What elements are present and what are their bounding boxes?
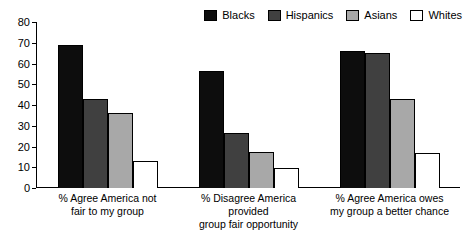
legend-entry-hispanics: Hispanics [268, 10, 334, 21]
y-axis-tick-label: 20 [18, 141, 30, 153]
category-label-line: % Agree America owes [321, 192, 458, 205]
y-axis-tick-label: 70 [18, 37, 30, 49]
y-axis-tick-mark [32, 147, 36, 148]
legend-entry-blacks: Blacks [204, 10, 254, 21]
legend-entry-whites: Whites [410, 10, 462, 21]
y-axis-tick-mark [32, 22, 36, 23]
bar-group [37, 22, 178, 188]
bar-slot [199, 22, 224, 188]
y-axis-tick-label: 30 [18, 120, 30, 132]
bar-slot [415, 22, 440, 188]
y-axis-tick-mark [32, 43, 36, 44]
y-axis-tick-label: 50 [18, 78, 30, 90]
bar-asians[interactable] [249, 152, 274, 188]
bar-blacks[interactable] [58, 45, 83, 188]
y-axis-tick-label: 0 [24, 182, 30, 194]
bar-slot [365, 22, 390, 188]
bar-slot [224, 22, 249, 188]
y-axis-tick-mark [32, 188, 36, 189]
bar-blacks[interactable] [199, 71, 224, 188]
y-axis-tick-label: 10 [18, 161, 30, 173]
legend-label: Asians [364, 10, 397, 21]
bar-hispanics[interactable] [365, 53, 390, 188]
bar-asians[interactable] [390, 99, 415, 188]
bar-slot [249, 22, 274, 188]
legend-label: Hispanics [286, 10, 334, 21]
legend-label: Whites [428, 10, 462, 21]
bar-slot [274, 22, 299, 188]
bar-group [178, 22, 319, 188]
legend-label: Blacks [222, 10, 254, 21]
bar-whites[interactable] [274, 168, 299, 188]
plot-area: 01020304050607080 [36, 22, 460, 188]
x-axis-category-labels: % Agree America notfair to my group% Dis… [37, 192, 460, 226]
category-label-line: my group a better chance [321, 205, 458, 218]
bar-whites[interactable] [133, 161, 158, 188]
bar-slot [108, 22, 133, 188]
category-label-line: group fair opportunity [180, 218, 317, 231]
y-axis-tick-mark [32, 84, 36, 85]
bar-slot [340, 22, 365, 188]
bar-slot [390, 22, 415, 188]
bar-asians[interactable] [108, 113, 133, 188]
bar-hispanics[interactable] [224, 133, 249, 188]
bar-slot [58, 22, 83, 188]
y-axis-tick-mark [32, 105, 36, 106]
bar-slot [83, 22, 108, 188]
bar-whites[interactable] [415, 153, 440, 188]
bar-group [319, 22, 460, 188]
bar-blacks[interactable] [340, 51, 365, 188]
y-axis-tick-label: 80 [18, 16, 30, 28]
chart-legend: BlacksHispanicsAsiansWhites [204, 8, 462, 22]
bar-hispanics[interactable] [83, 99, 108, 188]
y-axis-tick-label: 60 [18, 58, 30, 70]
category-label-line: % Disagree America provided [180, 192, 317, 218]
legend-entry-asians: Asians [346, 10, 397, 21]
y-axis-tick-mark [32, 167, 36, 168]
bar-chart: BlacksHispanicsAsiansWhites 010203040506… [0, 0, 468, 234]
category-label: % Agree America notfair to my group [37, 192, 178, 226]
category-label: % Agree America owesmy group a better ch… [319, 192, 460, 226]
legend-swatch-icon [410, 10, 423, 21]
bar-groups [37, 22, 460, 188]
legend-swatch-icon [268, 10, 281, 21]
legend-swatch-icon [346, 10, 359, 21]
legend-swatch-icon [204, 10, 217, 21]
y-axis-tick-label: 40 [18, 99, 30, 111]
y-axis-tick-mark [32, 64, 36, 65]
category-label-line: fair to my group [39, 205, 176, 218]
y-axis-tick-mark [32, 126, 36, 127]
category-label-line: % Agree America not [39, 192, 176, 205]
category-label: % Disagree America providedgroup fair op… [178, 192, 319, 226]
bar-slot [133, 22, 158, 188]
